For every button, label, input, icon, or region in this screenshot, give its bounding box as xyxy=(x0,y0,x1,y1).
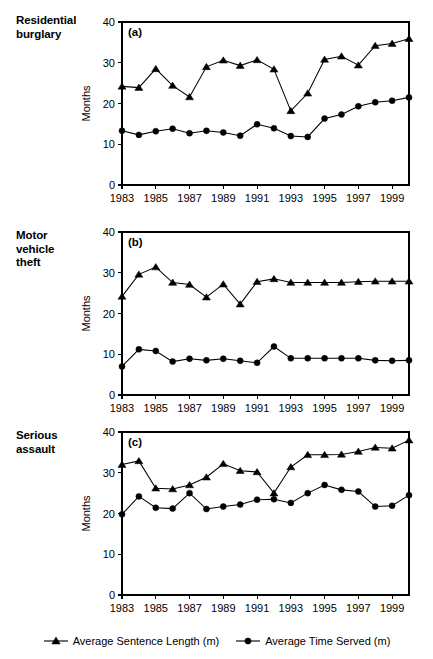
x-tick-label: 1995 xyxy=(312,192,336,204)
data-point-marker xyxy=(270,490,278,496)
y-tick-label: 30 xyxy=(103,267,115,279)
y-tick-label: 0 xyxy=(109,389,115,401)
data-point-marker xyxy=(271,125,277,131)
data-point-marker xyxy=(288,133,294,139)
data-point-marker xyxy=(406,357,412,363)
data-point-marker xyxy=(405,35,413,41)
figure-container: Residential burglary Motor vehicle theft… xyxy=(0,0,433,659)
x-tick-label: 1999 xyxy=(380,192,404,204)
data-point-marker xyxy=(203,357,209,363)
panel-tag: (b) xyxy=(128,236,143,248)
x-tick-label: 1989 xyxy=(211,192,235,204)
data-point-marker xyxy=(118,83,126,89)
data-point-marker xyxy=(304,90,312,96)
data-point-marker xyxy=(254,497,260,503)
data-point-marker xyxy=(305,134,311,140)
data-point-marker xyxy=(270,275,278,281)
data-point-marker xyxy=(288,355,294,361)
data-point-marker xyxy=(118,293,126,299)
chart-panel-b: 0102030401983198519871989199119931995199… xyxy=(0,210,433,420)
data-point-marker xyxy=(355,103,361,109)
data-point-marker xyxy=(305,355,311,361)
plot-area-b: 0102030401983198519871989199119931995199… xyxy=(0,210,433,425)
data-point-marker xyxy=(322,482,328,488)
legend-item-sentence: Average Sentence Length (m) xyxy=(43,635,220,647)
series-line-served xyxy=(122,347,409,367)
y-tick-label: 30 xyxy=(103,57,115,69)
data-point-marker xyxy=(254,360,260,366)
data-point-marker xyxy=(372,357,378,363)
chart-panel-a: 0102030401983198519871989199119931995199… xyxy=(0,0,433,215)
data-point-marker xyxy=(153,128,159,134)
data-point-marker xyxy=(237,502,243,508)
data-point-marker xyxy=(372,504,378,510)
data-point-marker xyxy=(187,130,193,136)
data-point-marker xyxy=(219,57,227,63)
y-axis-title: Months xyxy=(80,495,92,532)
data-point-marker xyxy=(405,437,413,443)
data-point-marker xyxy=(170,506,176,512)
series-line-sentence xyxy=(122,440,409,493)
data-point-marker xyxy=(119,363,125,369)
data-point-marker xyxy=(236,467,244,473)
data-point-marker xyxy=(219,460,227,466)
data-point-marker xyxy=(253,56,261,62)
data-point-marker xyxy=(337,53,345,59)
data-point-marker xyxy=(406,492,412,498)
y-tick-label: 10 xyxy=(103,548,115,560)
data-point-marker xyxy=(406,94,412,100)
plot-area-c: 0102030401983198519871989199119931995199… xyxy=(0,410,433,625)
panel-tag: (c) xyxy=(128,436,142,448)
data-point-marker xyxy=(135,271,143,277)
data-point-marker xyxy=(389,503,395,509)
data-point-marker xyxy=(271,496,277,502)
data-point-marker xyxy=(338,355,344,361)
x-tick-label: 1987 xyxy=(177,192,201,204)
data-point-marker xyxy=(288,500,294,506)
data-point-marker xyxy=(187,356,193,362)
legend-item-served: Average Time Served (m) xyxy=(235,635,390,647)
x-tick-label: 1985 xyxy=(144,192,168,204)
data-point-marker xyxy=(322,116,328,122)
data-point-marker xyxy=(305,490,311,496)
y-tick-label: 20 xyxy=(103,98,115,110)
data-point-marker xyxy=(170,126,176,132)
data-point-marker xyxy=(152,264,160,270)
y-tick-label: 40 xyxy=(103,16,115,28)
x-tick-label: 1991 xyxy=(245,192,269,204)
x-tick-label: 1985 xyxy=(144,602,168,614)
data-point-marker xyxy=(237,358,243,364)
data-point-marker xyxy=(153,505,159,511)
y-tick-label: 10 xyxy=(103,138,115,150)
data-point-marker xyxy=(372,99,378,105)
data-point-marker xyxy=(186,93,194,99)
x-tick-label: 1989 xyxy=(211,602,235,614)
data-point-marker xyxy=(270,66,278,72)
series-line-sentence xyxy=(122,267,409,304)
y-axis-title: Months xyxy=(80,295,92,332)
data-point-marker xyxy=(338,487,344,493)
y-tick-label: 40 xyxy=(103,226,115,238)
x-tick-label: 1993 xyxy=(279,192,303,204)
x-tick-label: 1993 xyxy=(279,602,303,614)
data-point-marker xyxy=(202,63,210,69)
y-tick-label: 40 xyxy=(103,426,115,438)
y-axis-title: Months xyxy=(80,85,92,122)
x-tick-label: 1997 xyxy=(346,602,370,614)
data-point-marker xyxy=(219,281,227,287)
y-tick-label: 20 xyxy=(103,308,115,320)
series-line-served xyxy=(122,97,409,137)
y-tick-label: 30 xyxy=(103,467,115,479)
data-point-marker xyxy=(338,112,344,118)
legend-circle-icon xyxy=(235,635,261,647)
data-point-marker xyxy=(170,359,176,365)
y-tick-label: 20 xyxy=(103,508,115,520)
data-point-marker xyxy=(203,506,209,512)
data-point-marker xyxy=(119,511,125,517)
data-point-marker xyxy=(254,121,260,127)
data-point-marker xyxy=(186,481,194,487)
data-point-marker xyxy=(135,457,143,463)
chart-panel-c: 0102030401983198519871989199119931995199… xyxy=(0,410,433,622)
data-point-marker xyxy=(153,348,159,354)
data-point-marker xyxy=(355,355,361,361)
